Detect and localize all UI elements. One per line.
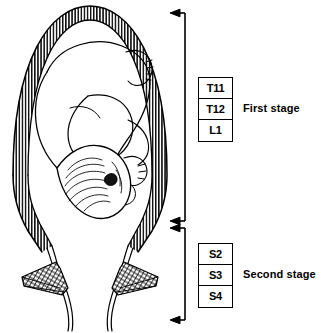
segment-label-t12: T12: [199, 99, 232, 120]
segment-label-l1: L1: [199, 120, 232, 141]
segment-label-s2: S2: [199, 244, 232, 265]
second-stage-segment-stack: S2 S3 S4: [198, 243, 233, 308]
second-stage-caption: Second stage: [243, 268, 316, 280]
first-stage-segment-stack: T11 T12 L1: [198, 77, 233, 142]
first-stage-caption: First stage: [243, 102, 300, 114]
segment-label-s4: S4: [199, 286, 232, 307]
uterus-fetus-illustration: [0, 0, 323, 333]
segment-label-s3: S3: [199, 265, 232, 286]
segment-label-t11: T11: [199, 78, 232, 99]
labour-stages-diagram: T11 T12 L1 First stage S2 S3 S4 Second s…: [0, 0, 323, 333]
